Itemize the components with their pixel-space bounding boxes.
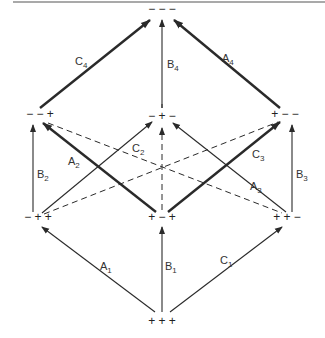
edge-arrow-c3: [168, 122, 280, 212]
node-ur: + − −: [271, 107, 299, 121]
edge-label-c4: C4: [75, 55, 88, 70]
edge-label-b3: B3: [296, 168, 308, 183]
edge-label-c1: C1: [220, 254, 233, 269]
node-uc: − + −: [148, 109, 176, 123]
dashed-edge: [48, 123, 282, 213]
sign-lattice-diagram: C4B4A4B2A2C2C3A3B3A1B1C1 − − −− − +− + −…: [0, 0, 325, 338]
edge-label-a3: A3: [250, 180, 262, 195]
edge-label-b2: B2: [37, 168, 49, 183]
edge-label-a1: A1: [100, 260, 112, 275]
edge-label-b1: B1: [165, 260, 177, 275]
edge-arrow-c4: [40, 20, 150, 108]
edge-arrow-c1: [170, 227, 282, 312]
node-lr: + + −: [273, 210, 301, 224]
edge-label-b4: B4: [167, 58, 179, 73]
edge-labels: C4B4A4B2A2C2C3A3B3A1B1C1: [37, 52, 308, 275]
edge-label-a2: A2: [68, 155, 80, 170]
edge-arrow-a4: [174, 20, 280, 108]
node-top: − − −: [148, 2, 176, 16]
edge-arrow-a1: [42, 227, 155, 312]
node-ll: − + +: [24, 210, 52, 224]
node-ul: − − +: [26, 107, 54, 121]
edge-label-c3: C3: [252, 148, 265, 163]
node-lc: + − +: [148, 210, 176, 224]
edge-arrow-a3: [173, 123, 286, 212]
node-bot: + + +: [148, 314, 176, 328]
edge-label-c2: C2: [132, 142, 145, 157]
